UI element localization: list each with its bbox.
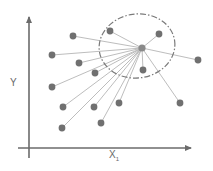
data-point <box>59 125 66 132</box>
data-point <box>92 70 99 77</box>
x-axis-label-subscript: 1 <box>116 156 119 162</box>
data-point <box>91 104 98 111</box>
data-point <box>60 104 67 111</box>
y-axis-label: Y <box>10 78 17 88</box>
data-point <box>195 57 202 64</box>
knn-diagram <box>0 0 213 171</box>
data-point <box>177 100 184 107</box>
data-point <box>70 33 77 40</box>
connector-lines <box>52 31 198 128</box>
data-point <box>140 67 147 74</box>
data-point <box>98 120 105 127</box>
connector-line <box>142 48 180 103</box>
query-point <box>138 44 145 51</box>
x-axis-label-text: X <box>109 149 116 160</box>
data-point <box>49 84 56 91</box>
data-point <box>116 100 123 107</box>
y-axis-label-text: Y <box>10 77 17 88</box>
data-point <box>49 52 56 59</box>
data-point <box>107 28 114 35</box>
data-point <box>156 31 163 38</box>
x-axis-label: X1 <box>109 150 119 162</box>
data-point <box>76 60 83 67</box>
neighborhood-ellipse <box>95 9 179 83</box>
connector-line <box>142 48 198 60</box>
